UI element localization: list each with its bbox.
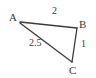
vertex-label-a: A: [9, 12, 17, 23]
triangle-side-bc: [72, 28, 77, 62]
vertex-label-c: C: [69, 65, 76, 76]
triangle-side-ac: [20, 23, 72, 62]
side-length-label-ab: 2: [52, 6, 57, 16]
side-length-label-ac: 2.5: [29, 38, 42, 48]
triangle-diagram: A B C 2 1 2.5: [0, 0, 96, 78]
triangle-side-ab: [20, 22, 77, 28]
side-length-label-bc: 1: [81, 39, 86, 49]
vertex-label-b: B: [79, 19, 86, 30]
